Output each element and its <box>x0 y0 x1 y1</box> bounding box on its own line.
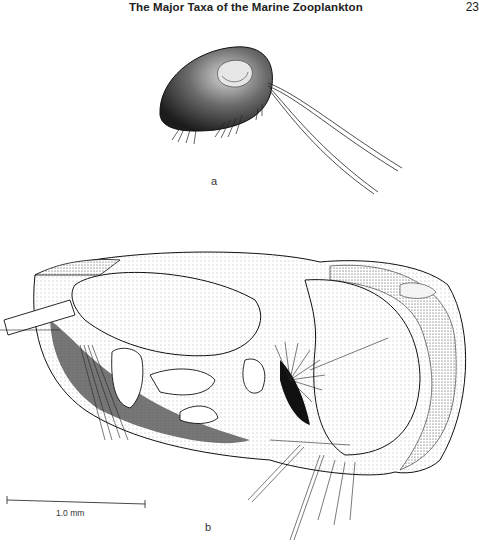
scale-bar-label: 1.0 mm <box>56 508 84 518</box>
figure-illustrations <box>0 0 479 544</box>
figure-a-ostracod <box>160 47 402 194</box>
figure-b-ostracod <box>0 252 466 540</box>
scale-bar <box>7 496 145 508</box>
figure-label-b: b <box>205 521 211 533</box>
figure-label-a: a <box>211 175 217 187</box>
